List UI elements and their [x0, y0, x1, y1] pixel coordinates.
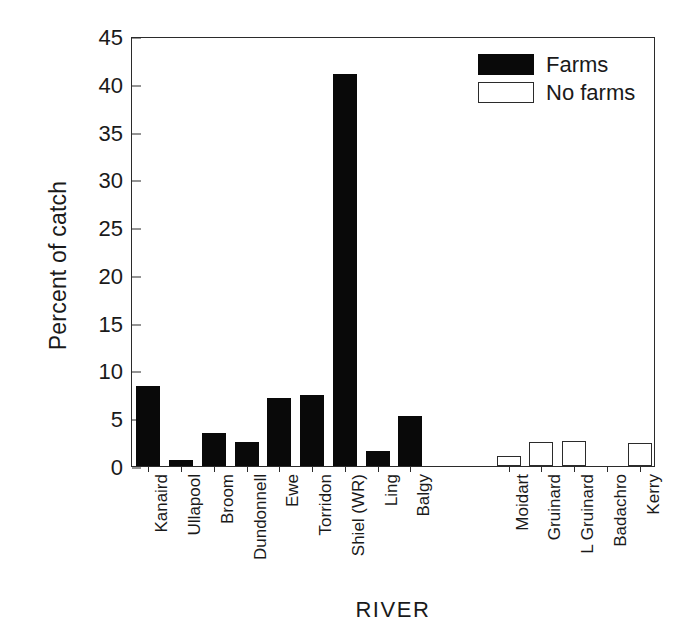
y-tick-label: 35: [99, 121, 123, 147]
x-tick-label-text: Kerry: [645, 474, 662, 515]
x-tick-label-text: Balgy: [415, 474, 432, 517]
y-tick-label: 5: [111, 407, 123, 433]
y-tick-label: 30: [99, 168, 123, 194]
legend-swatch-farms-icon: [478, 54, 534, 75]
x-tick-mark: [541, 466, 542, 472]
legend-item-no-farms: No farms: [478, 80, 635, 105]
x-tick-label-text: Ling: [383, 474, 400, 506]
x-tick-label-text: Gruinard: [546, 474, 563, 540]
x-tick-mark: [148, 466, 149, 472]
bar-gruinard: [529, 442, 553, 466]
y-tick-label: 20: [99, 264, 123, 290]
x-tick-label-text: Broom: [219, 474, 236, 524]
x-axis-title: RIVER: [131, 597, 655, 623]
legend-label-no-farms: No farms: [546, 80, 635, 106]
bar-kanaird: [136, 386, 160, 466]
y-tick-label: 10: [99, 359, 123, 385]
x-tick-mark: [509, 466, 510, 472]
bar-dundonnell: [235, 442, 259, 466]
bar-broom: [202, 433, 226, 466]
bar-torridon: [300, 395, 324, 466]
legend-label-farms: Farms: [546, 52, 608, 78]
y-tick-label: 40: [99, 73, 123, 99]
bar-ling: [366, 451, 390, 466]
y-tick-label: 45: [99, 25, 123, 51]
y-axis-title: Percent of catch: [45, 116, 72, 416]
x-tick-label-text: Badachro: [612, 474, 629, 547]
x-tick-label-text: Ewe: [284, 474, 301, 507]
x-tick-mark: [640, 466, 641, 472]
y-tick-mark: [132, 468, 141, 469]
x-tick-label-text: Shiel (WR): [350, 474, 367, 556]
x-tick-label-text: Kanaird: [153, 474, 170, 533]
x-tick-mark: [247, 466, 248, 472]
y-tick-label: 15: [99, 312, 123, 338]
bar-balgy: [398, 416, 422, 466]
x-tick-mark: [214, 466, 215, 472]
x-tick-label-text: Dundonnell: [252, 474, 269, 560]
bar-kerry: [628, 443, 652, 466]
bar-l-gruinard: [562, 441, 586, 466]
x-tick-label-text: Torridon: [317, 474, 334, 535]
bar-shiel-wr: [333, 74, 357, 466]
y-tick-label: 0: [111, 455, 123, 481]
bar-moidart: [497, 456, 521, 466]
chart-figure: Percent of catch 051015202530354045 Kana…: [0, 0, 685, 634]
x-tick-label-text: Ullapool: [186, 474, 203, 535]
legend-item-farms: Farms: [478, 52, 635, 77]
x-tick-mark: [410, 466, 411, 472]
x-tick-mark: [181, 466, 182, 472]
x-tick-label-text: Moidart: [514, 474, 531, 531]
x-tick-label-text: L Gruinard: [579, 474, 596, 554]
bar-ewe: [267, 398, 291, 466]
x-tick-mark: [279, 466, 280, 472]
y-tick-label: 25: [99, 216, 123, 242]
x-tick-mark: [574, 466, 575, 472]
x-tick-mark: [345, 466, 346, 472]
chart-legend: Farms No farms: [478, 52, 635, 108]
legend-swatch-no-farms-icon: [478, 82, 534, 103]
x-tick-mark: [378, 466, 379, 472]
x-tick-mark: [312, 466, 313, 472]
x-tick-mark: [607, 466, 608, 472]
